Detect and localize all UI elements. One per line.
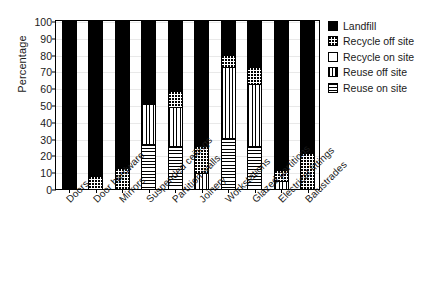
y-tick-mark (52, 55, 56, 56)
legend-swatch-icon (328, 83, 338, 93)
bar-segment (169, 108, 182, 147)
legend: LandfillRecycle off siteRecycle on siteR… (328, 18, 433, 96)
y-tick-label: 90 (40, 33, 52, 45)
legend-swatch-icon (328, 52, 338, 62)
y-tick-mark (52, 22, 56, 23)
bar-segment (301, 21, 314, 154)
bar-segment (63, 21, 76, 189)
y-tick-mark (52, 72, 56, 73)
bar-door-hardware (88, 20, 103, 189)
bar-segment (222, 56, 235, 68)
legend-label: Reuse off site (343, 66, 407, 78)
y-tick-label: 50 (40, 100, 52, 112)
legend-item: Reuse on site (328, 80, 433, 96)
y-tick-mark (52, 106, 56, 107)
y-tick-mark (52, 190, 56, 191)
legend-label: Reuse on site (343, 82, 407, 94)
y-tick-mark (52, 89, 56, 90)
y-axis-title: Percentage (16, 4, 28, 124)
y-tick-label: 30 (40, 134, 52, 146)
legend-item: Landfill (328, 18, 433, 34)
y-tick-mark (52, 156, 56, 157)
legend-label: Recycle on site (343, 51, 414, 63)
bar-segment (275, 21, 288, 171)
bar-segment (169, 92, 182, 109)
y-tick-mark (52, 122, 56, 123)
legend-swatch-icon (328, 21, 338, 31)
bar-workstations (221, 20, 236, 189)
legend-swatch-icon (328, 36, 338, 46)
legend-swatch-icon (328, 67, 338, 77)
bar-suspended-ceilings (141, 20, 156, 189)
bar-segment (169, 21, 182, 92)
y-tick-mark (52, 173, 56, 174)
bar-segment (222, 68, 235, 139)
bar-doors (62, 20, 77, 189)
legend-item: Reuse off site (328, 65, 433, 81)
y-tick-label: 60 (40, 83, 52, 95)
stacked-bar-chart: Percentage 0102030405060708090100 DoorsD… (0, 0, 435, 285)
y-tick-label: 100 (34, 16, 52, 28)
legend-label: Recycle off site (343, 35, 414, 47)
bar-segment (116, 21, 129, 169)
bar-segment (195, 21, 208, 147)
y-tick-label: 70 (40, 66, 52, 78)
y-tick-label: 80 (40, 50, 52, 62)
y-tick-label: 40 (40, 117, 52, 129)
y-tick-label: 20 (40, 150, 52, 162)
bar-segment (248, 85, 261, 147)
legend-label: Landfill (343, 20, 376, 32)
legend-item: Recycle on site (328, 49, 433, 65)
bar-segment (89, 21, 102, 177)
y-tick-mark (52, 139, 56, 140)
bar-segment (142, 105, 155, 145)
legend-item: Recycle off site (328, 34, 433, 50)
bar-segment (248, 68, 261, 85)
y-tick-label: 10 (40, 167, 52, 179)
bar-segment (248, 21, 261, 68)
y-tick-mark (52, 38, 56, 39)
bar-segment (142, 21, 155, 105)
bar-segment (222, 21, 235, 56)
